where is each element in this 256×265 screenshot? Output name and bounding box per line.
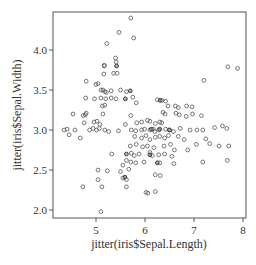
data-point-overlap xyxy=(115,64,119,68)
y-tick-label: 2.0 xyxy=(33,204,47,216)
y-tick-label: 4.0 xyxy=(33,44,47,56)
x-axis-label: jitter(iris$Sepal.Length) xyxy=(90,237,207,251)
y-axis-label: jitter(iris$Sepal.Width) xyxy=(10,59,24,171)
data-point-overlap xyxy=(150,127,154,131)
y-tick-label: 3.0 xyxy=(33,124,47,136)
x-tick-label: 6 xyxy=(142,224,148,236)
data-point-overlap xyxy=(168,128,172,132)
data-point-overlap xyxy=(123,175,127,179)
y-tick-label: 2.5 xyxy=(33,164,47,176)
x-tick-label: 7 xyxy=(191,224,197,236)
data-point-overlap xyxy=(125,152,129,156)
data-point-overlap xyxy=(158,127,162,131)
data-point-overlap xyxy=(124,97,128,101)
x-tick-label: 8 xyxy=(240,224,246,236)
data-point-overlap xyxy=(148,153,152,157)
data-point-overlap xyxy=(155,161,159,165)
data-point-overlap xyxy=(128,89,132,93)
data-point-overlap xyxy=(158,99,162,103)
x-tick-label: 5 xyxy=(93,224,99,236)
y-tick-label: 3.5 xyxy=(33,84,47,96)
scatter-plot: 2.02.53.03.54.0 5678 jitter(iris$Sepal.L… xyxy=(0,0,256,265)
